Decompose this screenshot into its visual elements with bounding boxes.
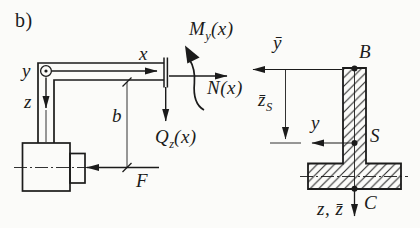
normal-argument: (x) <box>220 77 243 98</box>
dim-b-label: b <box>112 106 122 125</box>
normal-n-label: N(x) <box>207 78 243 97</box>
moment-my-label: My(x) <box>189 19 233 38</box>
shear-symbol: Q <box>155 126 169 147</box>
point-b-label: B <box>359 42 371 61</box>
moment-my-arc <box>190 60 205 111</box>
moment-my-arrowhead <box>185 46 200 64</box>
z-zbar-axis-label: z, z̄ <box>317 199 343 218</box>
shear-qz-label: Qz(x) <box>155 127 197 146</box>
y-axis-dot <box>44 69 47 72</box>
z-axis-label: z <box>24 92 32 111</box>
ybar-axis-label: ȳ <box>273 33 282 52</box>
zbar-symbol: z̄ <box>258 89 266 110</box>
force-f-label: F <box>136 171 148 190</box>
zbar-subscript: S <box>266 100 272 114</box>
figure-panel-b: b) x y z My(x) N(x) Qz(x) b F ȳ z̄S y z,… <box>0 0 420 228</box>
point-b-dot <box>352 66 358 72</box>
y-centroid-axis-label: y <box>311 113 320 132</box>
point-s-dot <box>352 140 358 146</box>
shear-argument: (x) <box>174 126 197 147</box>
point-s-label: S <box>370 126 380 145</box>
point-c-dot <box>352 186 358 192</box>
normal-symbol: N <box>207 77 220 98</box>
panel-label: b) <box>15 10 33 30</box>
moment-symbol: M <box>189 18 205 39</box>
moment-argument: (x) <box>211 18 234 39</box>
beam-outline <box>38 63 164 143</box>
support-chuck <box>70 154 85 184</box>
y-axis-label: y <box>22 61 31 80</box>
x-axis-label: x <box>139 44 148 63</box>
zbar-s-dim-label: z̄S <box>258 90 272 109</box>
point-c-label: C <box>364 193 377 212</box>
support-block <box>23 143 71 191</box>
